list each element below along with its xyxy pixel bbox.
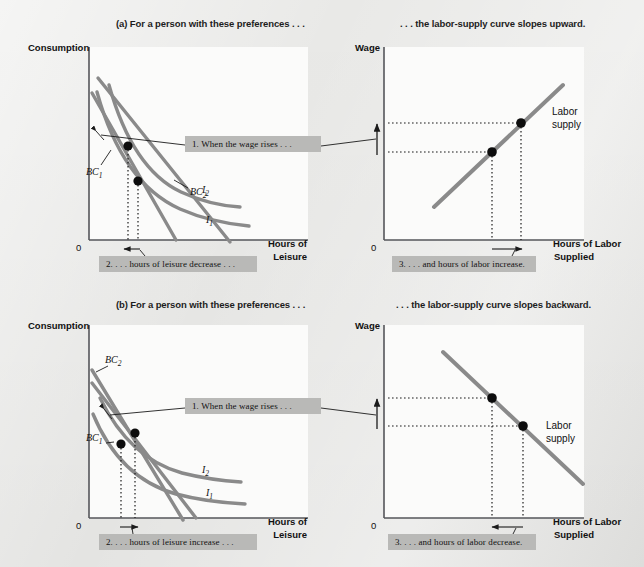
axis-label-hours-of-a: Hours of (243, 238, 307, 249)
axis-label-consumption-b: Consumption (28, 320, 89, 331)
curve-label-bc2-b: BC2 (105, 354, 122, 368)
curve-label-i1-b: I1 (206, 487, 213, 501)
curve-label-i2-a: I2 (202, 184, 209, 198)
axis-label-hours-labor-b: Hours of Labor (553, 516, 621, 527)
callout-leisure-increase-b: 2. . . . hours of leisure increase . . . (99, 534, 257, 550)
callout-labor-decrease-b: 3. . . . and hours of labor decrease. (388, 534, 536, 550)
curve-label-bc1-b: BC1 (86, 432, 103, 446)
callout-wage-rises-b: 1. When the wage rises . . . (185, 398, 321, 414)
callout-labor-increase-a: 3. . . . and hours of labor increase. (392, 256, 536, 272)
callout-wage-rises-a: 1. When the wage rises . . . (185, 136, 321, 152)
axis-label-hours-labor-a: Hours of Labor (553, 238, 621, 249)
origin-b-right: 0 (371, 520, 376, 531)
labor-supply-label-a: Labor supply (552, 106, 581, 131)
curve-label-i2-b: I2 (202, 464, 209, 478)
figure-text-layer: Consumption 0 Hours of Leisure BC1 BC2 I… (0, 0, 644, 567)
callout-leisure-decrease-a: 2. . . . hours of leisure decrease . . . (99, 256, 257, 272)
axis-label-consumption-a: Consumption (28, 42, 89, 53)
axis-label-wage-a: Wage (355, 42, 380, 53)
origin-a-left: 0 (76, 242, 81, 253)
curve-label-i1-a: I1 (206, 214, 213, 228)
curve-label-bc1-a: BC1 (86, 166, 103, 180)
origin-a-right: 0 (371, 242, 376, 253)
axis-label-wage-b: Wage (355, 320, 380, 331)
axis-label-hours-of-b: Hours of (243, 516, 307, 527)
labor-supply-label-b: Labor supply (546, 420, 575, 445)
labor-supply-figure: (a) For a person with these preferences … (0, 0, 644, 567)
origin-b-left: 0 (76, 520, 81, 531)
